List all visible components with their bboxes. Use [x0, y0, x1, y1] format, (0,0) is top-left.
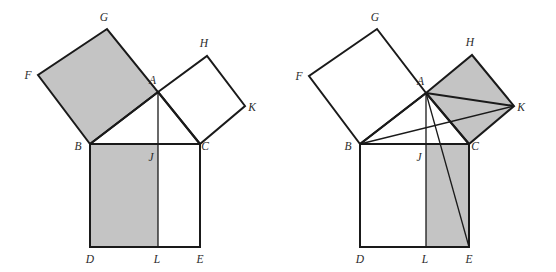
right-label-A: A	[416, 75, 425, 87]
left-label-K: K	[247, 101, 257, 113]
right-label-C: C	[471, 140, 479, 152]
right-label-D: D	[355, 253, 365, 265]
left-label-J: J	[148, 151, 154, 163]
right-panel: A B C D E F G H J K L	[294, 11, 526, 265]
left-label-A: A	[148, 74, 157, 86]
right-label-J: J	[416, 151, 422, 163]
left-label-H: H	[199, 37, 209, 49]
euclid-proposition-diagram: A B C D E F G H J K L	[0, 0, 556, 272]
right-rect-jlec-fill	[426, 144, 469, 247]
left-label-F: F	[23, 69, 32, 81]
figure-canvas: A B C D E F G H J K L	[0, 0, 556, 272]
right-label-F: F	[294, 70, 303, 82]
left-panel: A B C D E F G H J K L	[23, 11, 257, 265]
right-label-K: K	[516, 101, 526, 113]
left-rect-jlec-fill	[158, 144, 200, 247]
right-label-H: H	[465, 36, 475, 48]
left-label-C: C	[201, 140, 209, 152]
right-label-G: G	[371, 11, 380, 23]
right-label-L: L	[421, 253, 428, 265]
left-label-G: G	[100, 11, 109, 23]
left-label-E: E	[195, 253, 203, 265]
left-label-L: L	[153, 253, 160, 265]
left-label-D: D	[85, 253, 95, 265]
left-label-B: B	[74, 140, 81, 152]
right-label-E: E	[464, 253, 472, 265]
right-label-B: B	[344, 140, 351, 152]
